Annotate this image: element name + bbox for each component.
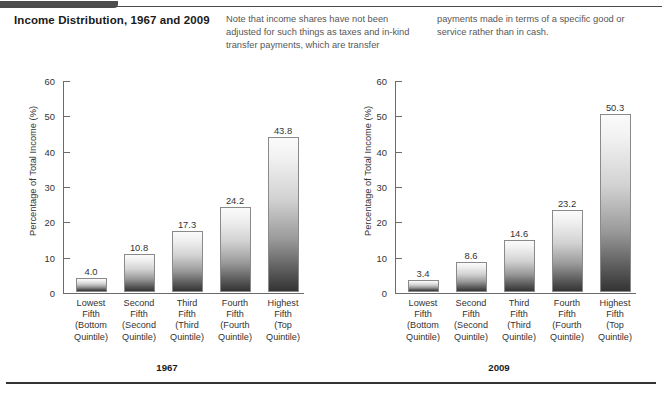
x-axis-category-label: ThirdFifth(ThirdQuintile) (161, 298, 213, 343)
y-axis-tick-label: 60 (377, 76, 387, 87)
bar-value-label: 50.3 (606, 102, 624, 113)
y-axis-tick-label: 50 (377, 111, 387, 122)
y-axis-tick-label: 10 (45, 252, 55, 263)
y-axis-tick-label: 20 (45, 217, 55, 228)
y-axis-tick (396, 293, 402, 294)
bar: 4.0 (76, 278, 107, 292)
plot-area: 01020304050603.48.614.623.250.3 (395, 81, 635, 293)
y-axis-tick (396, 222, 402, 223)
y-axis-tick (396, 187, 402, 188)
chart-panel-2009: Percentage of Total Income (%) 010203040… (338, 70, 660, 380)
y-axis-tick (396, 152, 402, 153)
y-axis-tick-label: 30 (45, 182, 55, 193)
y-axis-tick (396, 81, 402, 82)
bar: 17.3 (172, 231, 203, 292)
y-axis-tick (64, 258, 70, 259)
y-axis-tick (64, 187, 70, 188)
x-axis-category-label: SecondFifth(SecondQuintile) (445, 298, 497, 343)
header-divider (0, 6, 662, 7)
y-axis-tick-label: 10 (377, 252, 387, 263)
bar: 10.8 (124, 254, 155, 292)
x-axis-category-label: LowestFifth(BottomQuintile) (397, 298, 449, 343)
bar-value-label: 4.0 (84, 266, 97, 277)
y-axis-tick-label: 20 (377, 217, 387, 228)
y-axis-tick-label: 0 (382, 288, 387, 299)
x-axis-category-label: HighestFifth(TopQuintile) (257, 298, 309, 343)
bar: 14.6 (504, 240, 535, 292)
y-axis-tick (64, 81, 70, 82)
y-axis-tick-label: 40 (377, 146, 387, 157)
figure-title: Income Distribution, 1967 and 2009 (14, 14, 210, 26)
y-axis-tick (64, 152, 70, 153)
y-axis-tick (396, 258, 402, 259)
x-axis-category-label: FourthFifth(FourthQuintile) (541, 298, 593, 343)
bar-value-label: 10.8 (130, 242, 148, 253)
x-axis-line (63, 293, 304, 294)
bar: 3.4 (408, 280, 439, 292)
bar: 50.3 (600, 114, 631, 292)
y-axis-tick-label: 50 (45, 111, 55, 122)
bar-value-label: 24.2 (226, 195, 244, 206)
y-axis-label: Percentage of Total Income (%) (363, 81, 373, 261)
bar-value-label: 3.4 (416, 268, 429, 279)
panel-year-label: 2009 (338, 362, 660, 373)
x-axis-category-label: ThirdFifth(ThirdQuintile) (493, 298, 545, 343)
bar: 43.8 (268, 137, 299, 292)
bar: 8.6 (456, 262, 487, 292)
x-axis-line (395, 293, 636, 294)
bar: 23.2 (552, 210, 583, 292)
plot-area: 01020304050604.010.817.324.243.8 (63, 81, 303, 293)
x-axis-category-label: FourthFifth(FourthQuintile) (209, 298, 261, 343)
y-axis-tick-label: 40 (45, 146, 55, 157)
y-axis-tick (64, 222, 70, 223)
bar-value-label: 14.6 (510, 228, 528, 239)
y-axis-tick (396, 116, 402, 117)
y-axis-tick (64, 293, 70, 294)
bar: 24.2 (220, 207, 251, 293)
y-axis-tick (64, 116, 70, 117)
y-axis-label: Percentage of Total Income (%) (28, 81, 38, 261)
figure-root: Income Distribution, 1967 and 2009 Note … (0, 0, 662, 398)
x-axis-category-label: HighestFifth(TopQuintile) (589, 298, 641, 343)
bar-value-label: 23.2 (558, 198, 576, 209)
x-axis-category-label: LowestFifth(BottomQuintile) (65, 298, 117, 343)
bar-value-label: 17.3 (178, 219, 196, 230)
bar-value-label: 8.6 (464, 250, 477, 261)
chart-panel-1967: Percentage of Total Income (%) 010203040… (6, 70, 328, 380)
bar-value-label: 43.8 (274, 125, 292, 136)
footer-divider (6, 382, 656, 384)
y-axis-tick-label: 0 (50, 288, 55, 299)
figure-note-column-2: payments made in terms of a specific goo… (437, 13, 649, 39)
y-axis-tick-label: 60 (45, 76, 55, 87)
figure-note-column-1: Note that income shares have not been ad… (226, 13, 422, 53)
y-axis-tick-label: 30 (377, 182, 387, 193)
x-axis-category-label: SecondFifth(SecondQuintile) (113, 298, 165, 343)
panel-year-label: 1967 (6, 362, 328, 373)
